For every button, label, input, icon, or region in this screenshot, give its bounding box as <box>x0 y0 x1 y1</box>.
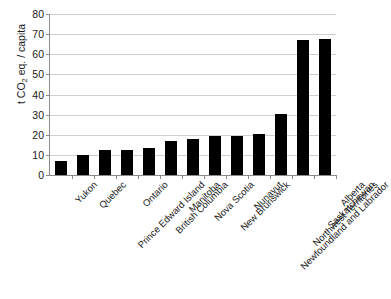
y-axis-tick-label: 30 <box>22 110 44 120</box>
y-axis-tick-label: 10 <box>22 150 44 160</box>
bar[interactable] <box>165 141 177 175</box>
plot-area <box>49 14 336 176</box>
x-axis-tick-mark <box>226 175 227 179</box>
x-axis-tick-mark <box>204 175 205 179</box>
y-axis-tick-label: 60 <box>22 49 44 59</box>
y-axis-tick-label: 70 <box>22 29 44 39</box>
y-axis-tick-mark <box>46 175 50 176</box>
y-axis-tick-labels: 80706050403020100 <box>22 0 44 299</box>
bar[interactable] <box>275 114 287 175</box>
bar[interactable] <box>297 40 309 175</box>
bar[interactable] <box>253 134 265 175</box>
x-axis-tick-mark <box>336 175 337 179</box>
y-axis-tick-label: 0 <box>22 170 44 180</box>
x-axis-tick-mark <box>94 175 95 179</box>
y-axis-tick-label: 40 <box>22 90 44 100</box>
x-axis-category-label[interactable]: Yukon <box>73 179 99 205</box>
x-axis-category-label[interactable]: Quebec <box>97 179 128 210</box>
bar[interactable] <box>77 155 89 175</box>
bar[interactable] <box>231 136 243 175</box>
bar[interactable] <box>209 136 221 175</box>
y-axis-tick-label: 20 <box>22 130 44 140</box>
bars-layer <box>50 14 336 175</box>
bar[interactable] <box>99 150 111 175</box>
bar[interactable] <box>187 139 199 175</box>
bar[interactable] <box>319 39 331 175</box>
x-axis-tick-mark <box>270 175 271 179</box>
x-axis-tick-mark <box>72 175 73 179</box>
x-axis-tick-mark <box>116 175 117 179</box>
y-axis-tick-label: 50 <box>22 69 44 79</box>
bar[interactable] <box>121 150 133 175</box>
bar[interactable] <box>55 161 67 175</box>
x-axis-tick-mark <box>138 175 139 179</box>
x-axis-tick-mark <box>292 175 293 179</box>
x-axis-tick-mark <box>314 175 315 179</box>
y-axis-tick-label: 80 <box>22 9 44 19</box>
bar[interactable] <box>143 148 155 175</box>
x-axis-category-label[interactable]: Ontario <box>140 179 170 209</box>
x-axis-tick-mark <box>182 175 183 179</box>
